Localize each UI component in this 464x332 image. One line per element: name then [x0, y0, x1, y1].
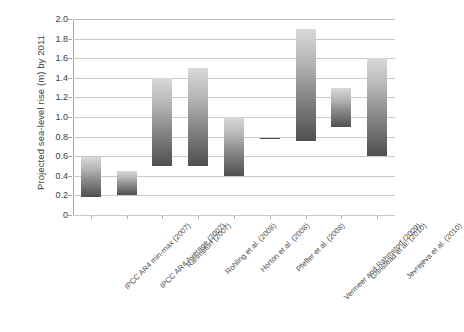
- y-axis-tick-label: 1.2: [44, 93, 68, 102]
- y-axis-tick-mark: [68, 117, 72, 118]
- x-axis-tick-mark: [234, 215, 235, 219]
- y-axis-tick-mark: [68, 78, 72, 79]
- x-axis-tick-mark: [198, 215, 199, 219]
- y-axis-tick-mark: [68, 97, 72, 98]
- bar: [81, 157, 101, 197]
- y-axis-tick-label: 1.6: [44, 54, 68, 63]
- bar: [367, 58, 387, 156]
- bar: [296, 29, 316, 142]
- y-axis-tick-mark: [68, 58, 72, 59]
- x-axis-tick-mark: [377, 215, 378, 219]
- y-axis-tick-labels: 00.20.40.60.81.01.21.41.61.82.0: [40, 19, 68, 215]
- bar: [224, 117, 244, 176]
- y-axis-tick-label: 0.8: [44, 132, 68, 141]
- x-axis-tick-mark: [162, 215, 163, 219]
- y-axis-tick-label: 0.2: [44, 191, 68, 200]
- x-axis-tick-mark: [127, 215, 128, 219]
- y-axis-tick-mark: [68, 176, 72, 177]
- x-axis-tick-mark: [91, 215, 92, 219]
- y-axis-tick-label: 0.4: [44, 171, 68, 180]
- bar: [117, 171, 137, 196]
- x-axis-tick-mark: [270, 215, 271, 219]
- y-axis-tick-mark: [68, 39, 72, 40]
- plot-area: [73, 19, 395, 215]
- bar: [331, 88, 351, 127]
- y-axis-tick-mark: [68, 19, 72, 20]
- y-axis-tick-label: 2.0: [44, 15, 68, 24]
- x-axis-category-label: IPCC AR4 min-max (2007): [123, 222, 192, 291]
- y-axis-tick-label: 1.8: [44, 34, 68, 43]
- y-axis-tick-mark: [68, 195, 72, 196]
- y-axis-tick-label: 0.6: [44, 152, 68, 161]
- gridline: [73, 78, 395, 79]
- bar: [188, 68, 208, 166]
- y-axis-tick-mark: [68, 156, 72, 157]
- y-axis-tick-mark: [68, 215, 72, 216]
- bar: [260, 138, 280, 139]
- gridline: [73, 39, 395, 40]
- gridline: [73, 19, 395, 20]
- y-axis-tick-label: 1.4: [44, 73, 68, 82]
- y-axis-tick-mark: [68, 137, 72, 138]
- x-axis-tick-mark: [306, 215, 307, 219]
- x-axis-tick-mark: [341, 215, 342, 219]
- gridline: [73, 195, 395, 196]
- x-axis-category-label: Rahmstorf (2007): [186, 222, 233, 269]
- gridline: [73, 58, 395, 59]
- y-axis-tick-label: 1.0: [44, 113, 68, 122]
- y-axis-tick-label: 0: [44, 211, 68, 220]
- bar: [152, 78, 172, 166]
